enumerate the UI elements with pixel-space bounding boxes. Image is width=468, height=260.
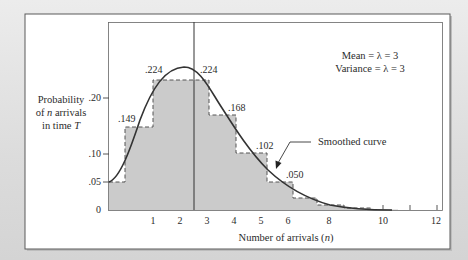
y-tick-label-005: .05 bbox=[89, 176, 102, 187]
x-tick-label-10: 10 bbox=[378, 215, 388, 226]
x-tick-label-12: 12 bbox=[431, 215, 441, 226]
x-tick-label-1: 1 bbox=[151, 215, 156, 226]
poisson-chart: .20 .10 .05 0 Probability of n arrivals … bbox=[0, 0, 468, 260]
y-tick-label-0: 0 bbox=[96, 204, 101, 215]
x-tick-label-3: 3 bbox=[205, 215, 210, 226]
x-tick-label-5: 5 bbox=[259, 215, 264, 226]
y-tick-label-020: .20 bbox=[89, 92, 102, 103]
y-axis-label-line1: Probability bbox=[38, 94, 85, 105]
variance-annotation: Variance = λ = 3 bbox=[335, 63, 404, 74]
y-axis-label-line2: of n arrivals bbox=[36, 107, 87, 118]
bar-label-4: .168 bbox=[228, 102, 246, 113]
bar-label-2: .224 bbox=[145, 64, 163, 75]
y-axis-label-line3: in time T bbox=[42, 120, 81, 131]
x-tick-label-8: 8 bbox=[327, 215, 332, 226]
mean-annotation: Mean = λ = 3 bbox=[342, 50, 399, 61]
bar-label-5: .102 bbox=[256, 140, 274, 151]
x-tick-label-6: 6 bbox=[286, 215, 291, 226]
x-tick-label-2: 2 bbox=[178, 215, 183, 226]
bar-label-1: .149 bbox=[118, 113, 136, 124]
x-axis-label: Number of arrivals (n) bbox=[239, 232, 334, 244]
bar-label-6: .050 bbox=[286, 169, 304, 180]
y-tick-label-010: .10 bbox=[89, 148, 102, 159]
bar-label-3: .224 bbox=[200, 64, 218, 75]
x-tick-label-4: 4 bbox=[232, 215, 237, 226]
smoothed-curve-label: Smoothed curve bbox=[318, 136, 387, 147]
